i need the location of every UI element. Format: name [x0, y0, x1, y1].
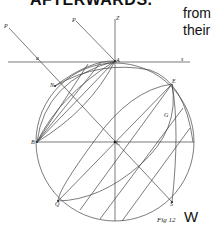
label-z: Z — [116, 15, 120, 21]
figure-caption: Fig 12 — [156, 216, 176, 224]
label-g: G — [164, 112, 169, 118]
label-b: B — [31, 139, 35, 145]
label-s: S — [170, 201, 173, 207]
point-b — [36, 141, 38, 143]
label-p2: P — [71, 17, 76, 23]
label-n: N — [49, 82, 55, 88]
point-n — [54, 85, 56, 87]
line-parallel-e-1 — [80, 84, 172, 210]
label-a: A — [115, 57, 120, 63]
line-b-parallel-2 — [37, 64, 88, 142]
label-q: Q — [55, 201, 60, 207]
label-e: E — [171, 78, 176, 84]
geometric-figure: P P Z a A s N E G B C Q S Fig 12 — [0, 0, 211, 235]
ray-p2 — [76, 21, 115, 61]
label-s-lower: s — [181, 56, 184, 62]
ray-p1 — [9, 28, 172, 202]
arc-e-s — [172, 84, 176, 202]
label-p1: P — [3, 23, 8, 29]
label-a-lower: a — [36, 55, 39, 61]
label-c: C — [116, 140, 121, 146]
